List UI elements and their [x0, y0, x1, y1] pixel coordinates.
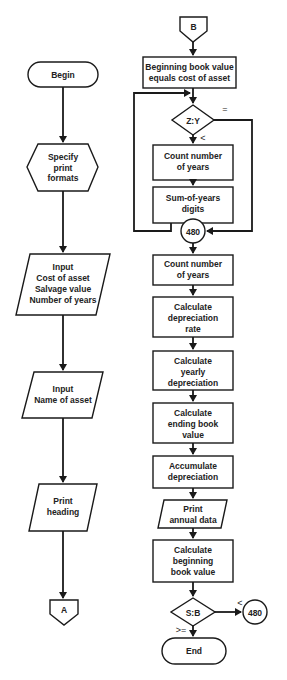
label: depreciation: [168, 313, 219, 323]
svg-text:beginning: beginning: [173, 556, 214, 566]
label: Input: [53, 262, 74, 272]
svg-text:depreciation: depreciation: [168, 472, 219, 482]
svg-text:equals cost of asset: equals cost of asset: [149, 73, 230, 83]
svg-text:Name of asset: Name of asset: [34, 395, 92, 405]
begin-terminator: Begin: [28, 62, 98, 87]
accumulate-depreciation: Accumulate depreciation: [153, 456, 233, 488]
decision-s-b: S:B: [171, 598, 215, 626]
label: Name of asset: [34, 395, 92, 405]
svg-text:book value: book value: [171, 567, 216, 577]
edge-label-greater-equal: >=: [176, 625, 187, 635]
svg-text:480: 480: [248, 608, 262, 618]
svg-text:annual data: annual data: [169, 515, 217, 525]
label: equals cost of asset: [149, 73, 230, 83]
decision-z-y: Z:Y: [172, 105, 214, 135]
sum-of-years-digits: Sum-of-years digits: [153, 187, 233, 223]
label: Calculate: [174, 545, 212, 555]
label: Begin: [51, 70, 75, 80]
svg-text:formats: formats: [47, 173, 78, 183]
label: depreciation: [168, 472, 219, 482]
svg-text:Calculate: Calculate: [174, 408, 212, 418]
label: Salvage value: [35, 284, 92, 294]
svg-text:Print: Print: [53, 496, 73, 506]
node-480: 480: [181, 219, 205, 243]
svg-text:Calculate: Calculate: [174, 302, 212, 312]
specify-print-formats-preparation: Specify print formats: [27, 144, 98, 191]
count-number-of-years-2: Count number of years: [153, 255, 233, 285]
svg-text:Beginning book value: Beginning book value: [145, 62, 234, 72]
label: annual data: [169, 515, 217, 525]
svg-text:of years: of years: [177, 270, 210, 280]
svg-text:print: print: [54, 163, 73, 173]
svg-text:Accumulate: Accumulate: [169, 461, 217, 471]
label: heading: [47, 507, 80, 517]
flowchart-canvas: Begin Specify print formats Input Cost o…: [0, 0, 287, 680]
label: print: [54, 163, 73, 173]
label: book value: [171, 567, 216, 577]
label: value: [182, 430, 204, 440]
label: Count number: [164, 259, 223, 269]
label: Specify: [48, 152, 79, 162]
svg-text:depreciation: depreciation: [168, 313, 219, 323]
label: Sum-of-years: [166, 193, 221, 203]
svg-text:A: A: [61, 605, 67, 615]
label: formats: [47, 173, 78, 183]
label: Z:Y: [186, 116, 200, 126]
svg-text:Calculate: Calculate: [174, 545, 212, 555]
print-annual-data-output: Print annual data: [158, 500, 227, 528]
label: digits: [182, 204, 205, 214]
label: rate: [185, 324, 201, 334]
svg-text:480: 480: [186, 227, 200, 237]
input-name-of-asset: Input Name of asset: [22, 372, 103, 418]
edge-label-less: <: [200, 133, 205, 143]
svg-text:value: value: [182, 430, 204, 440]
beginning-book-value-process: Beginning book value equals cost of asse…: [143, 57, 236, 88]
label: 480: [248, 608, 262, 618]
svg-text:rate: rate: [185, 324, 201, 334]
label: Print: [183, 504, 203, 514]
label: End: [186, 646, 202, 656]
svg-text:of years: of years: [177, 162, 210, 172]
label: Input: [53, 384, 74, 394]
label: depreciation: [168, 378, 219, 388]
label: Number of years: [29, 295, 96, 305]
calculate-ending-book-value: Calculate ending book value: [153, 403, 233, 443]
count-number-of-years-1: Count number of years: [153, 145, 233, 180]
svg-text:Count number: Count number: [164, 151, 223, 161]
label: S:B: [186, 608, 201, 618]
label: Cost of asset: [36, 273, 90, 283]
end-terminator: End: [162, 638, 226, 664]
label: yearly: [181, 367, 206, 377]
connector-a: A: [50, 600, 78, 625]
svg-text:Print: Print: [183, 504, 203, 514]
label: 480: [186, 227, 200, 237]
svg-text:Z:Y: Z:Y: [186, 116, 200, 126]
calculate-yearly-depreciation: Calculate yearly depreciation: [153, 351, 233, 390]
svg-text:End: End: [186, 646, 202, 656]
svg-text:yearly: yearly: [181, 367, 206, 377]
svg-text:Input: Input: [53, 384, 74, 394]
calculate-depreciation-rate: Calculate depreciation rate: [153, 297, 233, 337]
edge-label-equal: =: [222, 104, 227, 114]
svg-text:Number of years: Number of years: [29, 295, 96, 305]
svg-text:Begin: Begin: [51, 70, 75, 80]
label: A: [61, 605, 67, 615]
svg-text:B: B: [190, 22, 196, 32]
svg-text:heading: heading: [47, 507, 80, 517]
label: B: [190, 22, 196, 32]
node-480-goto: 480: [243, 600, 267, 624]
label: Beginning book value: [145, 62, 234, 72]
svg-text:Input: Input: [53, 262, 74, 272]
label: Accumulate: [169, 461, 217, 471]
label: ending book: [168, 419, 219, 429]
svg-text:Specify: Specify: [48, 152, 79, 162]
svg-text:S:B: S:B: [186, 608, 201, 618]
input-cost-salvage-years: Input Cost of asset Salvage value Number…: [16, 254, 110, 315]
print-heading-output: Print heading: [29, 484, 97, 531]
label: beginning: [173, 556, 214, 566]
svg-text:Sum-of-years: Sum-of-years: [166, 193, 221, 203]
svg-text:ending book: ending book: [168, 419, 219, 429]
svg-text:Salvage value: Salvage value: [35, 284, 92, 294]
label: Count number: [164, 151, 223, 161]
label: Calculate: [174, 408, 212, 418]
